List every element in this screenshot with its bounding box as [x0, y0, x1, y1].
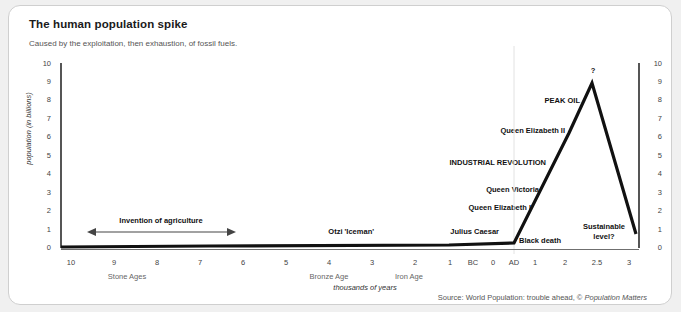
agriculture-arrow	[87, 228, 236, 236]
chart-card: The human population spike Caused by the…	[8, 5, 672, 305]
x-axis-title: thousands of years	[305, 283, 425, 292]
source-prefix: Source: World Population: trouble ahead,…	[438, 293, 585, 302]
population-curve	[61, 83, 636, 247]
source-publisher: Population Matters	[584, 293, 647, 302]
source-note: Source: World Population: trouble ahead,…	[438, 293, 647, 302]
chart-svg	[9, 6, 673, 306]
chart-plot-area: population (in billions) 10 9 8 7 6 5 4 …	[9, 6, 673, 306]
